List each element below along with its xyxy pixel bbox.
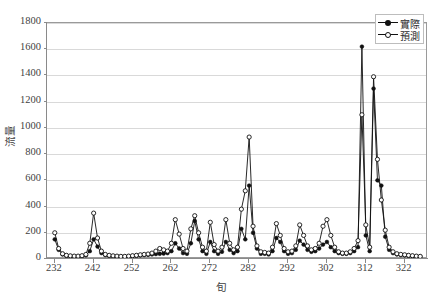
data-point xyxy=(321,224,325,228)
data-point xyxy=(298,239,302,243)
data-point xyxy=(173,218,177,222)
legend-marker-filled-circle-icon xyxy=(378,17,398,29)
data-point xyxy=(212,249,216,253)
plot-area xyxy=(46,22,427,258)
series-layer xyxy=(47,23,428,259)
y-tick-label: 1800 xyxy=(0,16,41,26)
data-point xyxy=(313,246,317,250)
data-point xyxy=(95,236,99,240)
data-point xyxy=(294,248,298,252)
data-point xyxy=(317,247,321,251)
data-point xyxy=(255,244,259,248)
data-point xyxy=(348,250,352,254)
data-point xyxy=(92,211,96,215)
data-point xyxy=(243,189,247,193)
data-point xyxy=(333,245,337,249)
data-point xyxy=(88,241,92,245)
y-tick-label: 1000 xyxy=(0,121,41,131)
x-tick-mark xyxy=(287,259,288,263)
data-point xyxy=(360,113,364,117)
data-point xyxy=(197,231,201,235)
data-point xyxy=(247,135,251,139)
x-tick-mark xyxy=(93,259,94,263)
data-point xyxy=(53,231,57,235)
data-point xyxy=(282,246,286,250)
x-tick-mark xyxy=(404,259,405,263)
x-tick-label: 312 xyxy=(345,262,385,273)
data-point xyxy=(298,223,302,227)
data-point xyxy=(243,237,247,241)
legend: 實際 預測 xyxy=(375,14,424,44)
legend-label-forecast: 預測 xyxy=(398,28,420,43)
data-point xyxy=(383,228,387,232)
data-point xyxy=(200,245,204,249)
data-point xyxy=(333,249,337,253)
data-point xyxy=(154,249,158,253)
y-tick-label: 800 xyxy=(0,147,41,157)
y-tick-label: 0 xyxy=(0,252,41,262)
data-point xyxy=(274,222,278,226)
data-point xyxy=(305,244,309,248)
x-tick-label: 242 xyxy=(73,262,113,273)
x-tick-label: 282 xyxy=(228,262,268,273)
y-tick-label: 600 xyxy=(0,173,41,183)
x-tick-label: 272 xyxy=(189,262,229,273)
data-point xyxy=(158,252,162,256)
data-point xyxy=(251,224,255,228)
data-point xyxy=(352,246,356,250)
data-point xyxy=(379,198,383,202)
data-point xyxy=(294,244,298,248)
legend-marker-open-circle-icon xyxy=(378,29,398,41)
x-tick-label: 322 xyxy=(384,262,424,273)
data-point xyxy=(189,227,193,231)
data-point xyxy=(224,218,228,222)
y-tick-label: 200 xyxy=(0,226,41,236)
data-point xyxy=(228,241,232,245)
x-tick-mark xyxy=(326,259,327,263)
data-point xyxy=(239,227,243,231)
data-point xyxy=(360,45,364,49)
data-point xyxy=(375,157,379,161)
data-point xyxy=(96,245,100,249)
data-point xyxy=(201,249,205,253)
data-point xyxy=(88,249,92,253)
data-point xyxy=(325,240,329,244)
data-point xyxy=(371,75,375,79)
data-point xyxy=(290,249,294,253)
data-point xyxy=(84,252,88,256)
data-point xyxy=(177,232,181,236)
x-tick-mark xyxy=(248,259,249,263)
data-point xyxy=(173,241,177,245)
data-point xyxy=(235,245,239,249)
data-point xyxy=(57,246,61,250)
legend-item-forecast[interactable]: 預測 xyxy=(378,29,420,41)
data-point xyxy=(317,241,321,245)
data-point xyxy=(185,249,189,253)
data-point xyxy=(204,249,208,253)
data-point xyxy=(302,243,306,247)
data-point xyxy=(92,237,96,241)
data-point xyxy=(368,245,372,249)
x-tick-label: 302 xyxy=(306,262,346,273)
data-point xyxy=(228,248,232,252)
data-point xyxy=(387,245,391,249)
data-point xyxy=(325,218,329,222)
x-tick-label: 232 xyxy=(34,262,74,273)
data-point xyxy=(189,241,193,245)
data-point xyxy=(278,233,282,237)
data-point xyxy=(177,247,181,251)
x-tick-mark xyxy=(54,259,55,263)
data-point xyxy=(329,233,333,237)
data-point xyxy=(224,240,228,244)
y-tick-label: 1200 xyxy=(0,95,41,105)
data-point xyxy=(301,233,305,237)
data-point xyxy=(99,249,103,253)
series-forecast xyxy=(53,75,423,259)
x-tick-mark xyxy=(170,259,171,263)
data-point xyxy=(170,249,174,253)
data-point xyxy=(329,245,333,249)
data-point xyxy=(247,184,251,188)
x-tick-label: 292 xyxy=(267,262,307,273)
y-tick-label: 1400 xyxy=(0,68,41,78)
data-point xyxy=(220,245,224,249)
